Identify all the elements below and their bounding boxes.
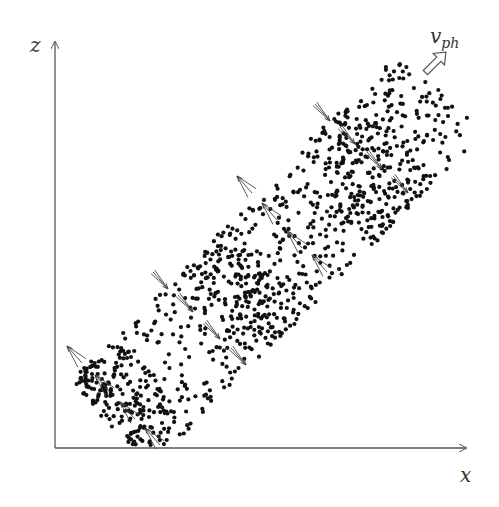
particle-dot (171, 302, 175, 306)
particle-dot (79, 376, 83, 380)
particle-dot (401, 102, 405, 106)
particle-dot (387, 105, 391, 109)
particle-dot (109, 387, 113, 391)
particle-dot (272, 292, 276, 296)
particle-dot (213, 292, 217, 296)
particle-dot (252, 333, 256, 337)
particle-dot (440, 141, 444, 145)
particle-dot (134, 429, 138, 433)
particle-dot (438, 132, 442, 136)
particle-dot (138, 424, 142, 428)
particle-dot (147, 369, 151, 373)
particle-dot (436, 88, 440, 92)
particle-dot (353, 198, 357, 202)
particle-dot (171, 332, 175, 336)
particle-dot (187, 427, 191, 431)
particle-dot (413, 130, 417, 134)
particle-dot (141, 413, 145, 417)
particle-dot (124, 373, 128, 377)
particle-dot (148, 373, 152, 377)
particle-dot (450, 105, 454, 109)
particle-dot (179, 362, 183, 366)
particle-dot (386, 213, 390, 217)
particle-dot (377, 197, 381, 201)
particle-dot (311, 241, 315, 245)
particle-dot (388, 88, 392, 92)
particle-dot (243, 346, 247, 350)
particle-dot (357, 105, 361, 109)
particle-dot (318, 138, 322, 142)
particle-dot (339, 222, 343, 226)
particle-dot (284, 288, 288, 292)
particle-dot (209, 303, 213, 307)
particle-dot (127, 436, 131, 440)
particle-dot (316, 202, 320, 206)
particle-dot (272, 232, 276, 236)
particle-dot (315, 205, 319, 209)
particle-dot (428, 174, 432, 178)
particle-dot (388, 224, 392, 228)
particle-dot (295, 260, 299, 264)
particle-dot (277, 330, 281, 334)
particle-dot (420, 95, 424, 99)
particle-dot (298, 301, 302, 305)
particle-dot (433, 118, 437, 122)
particle-dot (427, 91, 431, 95)
particle-dot (335, 165, 339, 169)
particle-dot (406, 160, 410, 164)
particle-dot (415, 109, 419, 113)
particle-dot (279, 306, 283, 310)
particle-dot (366, 171, 370, 175)
arrow-fan-up-left-icon (67, 346, 86, 367)
particle-dot (311, 219, 315, 223)
particle-dot (377, 185, 381, 189)
particle-dot (397, 167, 401, 171)
particle-dot (421, 177, 425, 181)
particle-dot (281, 196, 285, 200)
particle-dot (180, 373, 184, 377)
particle-dot (220, 379, 224, 383)
particle-dot (389, 153, 393, 157)
particle-dot (166, 430, 170, 434)
particle-dot (204, 261, 208, 265)
particle-dot (355, 203, 359, 207)
particle-dot (83, 373, 87, 377)
particle-dot (354, 148, 358, 152)
particle-dot (234, 237, 238, 241)
particle-dot (247, 290, 251, 294)
particle-dot (382, 189, 386, 193)
particle-dot (291, 190, 295, 194)
particle-dot (327, 165, 331, 169)
particle-dot (366, 211, 370, 215)
particle-dot (138, 378, 142, 382)
particle-dot (236, 294, 240, 298)
particle-dot (136, 319, 140, 323)
particle-dot (378, 126, 382, 130)
particle-dot (186, 397, 190, 401)
particle-dot (465, 116, 469, 120)
particle-dot (284, 200, 288, 204)
particle-dot (257, 355, 261, 359)
particle-dot (456, 122, 460, 126)
particle-dot (340, 272, 344, 276)
phase-velocity-label: vph (430, 24, 459, 51)
particle-dot (365, 218, 369, 222)
particle-dot (327, 276, 331, 280)
particle-dot (153, 319, 157, 323)
particle-dot (112, 414, 116, 418)
particle-dot (243, 241, 247, 245)
particle-dot (324, 254, 328, 258)
particle-dot (413, 190, 417, 194)
particle-dot (314, 149, 318, 153)
particle-dot (278, 203, 282, 207)
particle-dot (313, 300, 317, 304)
arrow-fan-up-left-icon (237, 176, 256, 197)
particle-dot (391, 206, 395, 210)
particle-dot (149, 328, 153, 332)
particle-dot (277, 291, 281, 295)
particle-dot (179, 325, 183, 329)
particle-dot (162, 427, 166, 431)
particle-dot (258, 252, 262, 256)
particle-dot (189, 276, 193, 280)
particle-dot (281, 282, 285, 286)
